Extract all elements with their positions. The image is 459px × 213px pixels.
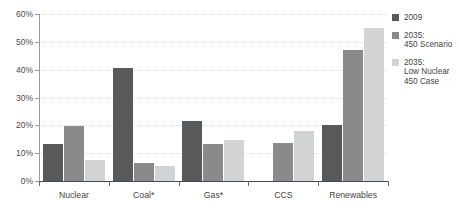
bar-groups xyxy=(39,14,388,181)
x-axis-tick-label: Gas* xyxy=(204,190,223,200)
y-axis-tick-label: 10% xyxy=(16,148,33,158)
y-axis-tick-label: 50% xyxy=(16,37,33,47)
x-axis-tick-mark xyxy=(109,181,110,186)
legend-item[interactable]: 2035:450 Scenario xyxy=(392,31,459,50)
bar xyxy=(343,50,363,181)
legend-label: Low Nuclear xyxy=(404,67,459,77)
legend-swatch-icon xyxy=(392,59,399,66)
bar xyxy=(134,163,154,181)
y-axis-tick-label: 40% xyxy=(16,65,33,75)
y-axis-tick-mark xyxy=(35,125,39,126)
bar xyxy=(43,144,63,181)
y-axis-tick-label: 0% xyxy=(21,176,33,186)
chart-title: and Low Nuclear 450 Case xyxy=(95,0,325,1)
bar xyxy=(155,166,175,181)
legend-label: 450 Case xyxy=(404,77,459,87)
bar xyxy=(64,126,84,181)
x-axis-line xyxy=(39,181,388,182)
x-axis-tick-mark xyxy=(318,181,319,186)
y-axis-tick-label: 30% xyxy=(16,93,33,103)
x-axis-tick-mark xyxy=(39,181,40,186)
legend-label: 2009 xyxy=(404,13,459,23)
bar xyxy=(294,131,314,181)
x-axis-tick-label: Renewables xyxy=(329,190,377,200)
y-axis-tick-mark xyxy=(35,14,39,15)
y-axis-tick-label: 20% xyxy=(16,120,33,130)
y-axis-tick-mark xyxy=(35,70,39,71)
legend-item[interactable]: 2009 xyxy=(392,13,459,23)
x-axis-tick-label: Coal* xyxy=(133,190,154,200)
legend-swatch-icon xyxy=(392,32,399,39)
bar xyxy=(322,125,342,181)
bar-group xyxy=(39,14,109,181)
x-axis-tick-mark xyxy=(388,181,389,186)
legend-item[interactable]: 2035:Low Nuclear450 Case xyxy=(392,58,459,87)
bar xyxy=(85,160,105,181)
bar-group xyxy=(109,14,179,181)
legend-swatch-icon xyxy=(392,14,399,21)
x-axis-tick-label: Nuclear xyxy=(59,190,89,200)
y-axis-labels: 0%10%20%30%40%50%60% xyxy=(0,14,33,181)
chart-figure: and Low Nuclear 450 Case 0%10%20%30%40%5… xyxy=(0,0,459,213)
y-axis-tick-mark xyxy=(35,98,39,99)
bar xyxy=(182,121,202,181)
x-axis-tick-mark xyxy=(248,181,249,186)
bar xyxy=(364,28,384,181)
bar xyxy=(203,144,223,181)
bar xyxy=(273,143,293,181)
x-axis-tick-label: CCS xyxy=(274,190,292,200)
legend-label: 450 Scenario xyxy=(404,40,459,50)
bar-group xyxy=(179,14,249,181)
legend-label: 2035: xyxy=(404,58,459,68)
x-axis-tick-mark xyxy=(179,181,180,186)
legend-label: 2035: xyxy=(404,31,459,41)
bar-group xyxy=(248,14,318,181)
y-axis-tick-mark xyxy=(35,153,39,154)
y-axis-tick-label: 60% xyxy=(16,9,33,19)
chart-legend: 20092035:450 Scenario2035:Low Nuclear450… xyxy=(392,13,459,95)
y-axis-tick-mark xyxy=(35,42,39,43)
bar-group xyxy=(318,14,388,181)
bar xyxy=(113,68,133,181)
bar xyxy=(224,140,244,181)
